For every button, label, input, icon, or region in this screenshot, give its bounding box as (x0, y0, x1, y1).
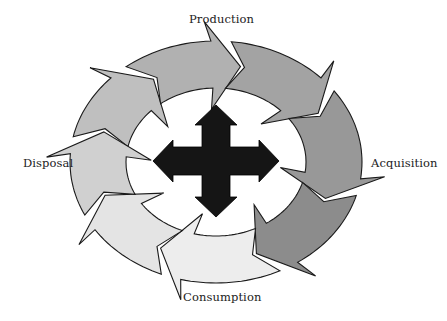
label-production: Production (189, 12, 254, 26)
label-consumption: Consumption (183, 290, 261, 304)
label-disposal: Disposal (23, 156, 73, 170)
label-acquisition: Acquisition (371, 156, 438, 170)
arrow-top-right (225, 42, 333, 124)
arrow-bottom-right (254, 182, 356, 276)
arrow-top-left (73, 68, 168, 147)
four-way-arrow-shape (153, 105, 279, 217)
four-way-arrow-icon (153, 105, 279, 217)
